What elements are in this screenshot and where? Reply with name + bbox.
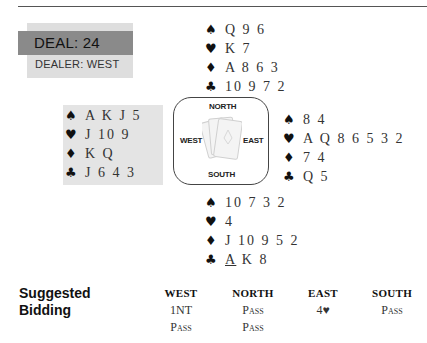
top-rule	[18, 6, 427, 7]
spade-icon: ♠	[205, 20, 225, 39]
bidding-header-west: WEST	[155, 285, 207, 302]
heart-icon: ♥	[205, 39, 225, 58]
east-hearts: ♥A Q 8 6 5 3 2	[283, 129, 404, 148]
south-hand: ♠10 7 3 2 ♥4 ♦J 10 9 5 2 ♣A K 8	[205, 193, 299, 269]
diamond-icon: ♦	[205, 231, 225, 250]
club-icon: ♣	[205, 250, 225, 269]
diamond-icon: ♦	[283, 148, 303, 167]
club-icon: ♣	[283, 167, 303, 186]
east-spades: ♠8 4	[283, 110, 404, 129]
south-diamonds: ♦J 10 9 5 2	[205, 231, 299, 250]
compass-west-label: WEST	[180, 136, 202, 145]
spade-icon: ♠	[283, 110, 303, 129]
bid: Pass	[363, 302, 421, 319]
bidding-column-south: SOUTH Pass	[363, 285, 421, 319]
compass-south-label: SOUTH	[208, 170, 235, 179]
west-hearts: ♥J 10 9	[65, 125, 141, 144]
spade-icon: ♠	[205, 193, 225, 212]
bidding-column-east: EAST 4♥	[298, 285, 348, 319]
heart-icon: ♥	[283, 129, 303, 148]
east-clubs: ♣Q 5	[283, 167, 404, 186]
bid: 1NT	[155, 302, 207, 319]
bid: Pass	[223, 302, 283, 319]
deal-number: DEAL: 24	[18, 31, 133, 55]
bidding-title: Suggested Bidding	[19, 285, 91, 319]
compass-table: NORTH WEST EAST SOUTH	[173, 97, 269, 185]
north-diamonds: ♦A 8 6 3	[205, 58, 287, 77]
north-clubs: ♣10 9 7 2	[205, 77, 287, 96]
bidding-header-south: SOUTH	[363, 285, 421, 302]
west-clubs: ♣J 6 4 3	[65, 163, 141, 182]
bid: Pass	[223, 319, 283, 336]
bidding-column-west: WEST 1NT Pass	[155, 285, 207, 336]
heart-icon: ♥	[65, 125, 85, 144]
compass-north-label: NORTH	[209, 102, 236, 111]
bidding-header-east: EAST	[298, 285, 348, 302]
bidding-column-north: NORTH Pass Pass	[223, 285, 283, 336]
north-spades: ♠Q 9 6	[205, 20, 287, 39]
east-diamonds: ♦7 4	[283, 148, 404, 167]
west-hand: ♠A K J 5 ♥J 10 9 ♦K Q ♣J 6 4 3	[65, 106, 141, 182]
club-icon: ♣	[65, 163, 85, 182]
north-hearts: ♥K 7	[205, 39, 287, 58]
north-hand: ♠Q 9 6 ♥K 7 ♦A 8 6 3 ♣10 9 7 2	[205, 20, 287, 96]
diamond-icon: ♦	[205, 58, 225, 77]
south-spades: ♠10 7 3 2	[205, 193, 299, 212]
compass-east-label: EAST	[243, 136, 264, 145]
bid: Pass	[155, 319, 207, 336]
diamond-icon: ♦	[65, 144, 85, 163]
opening-lead-card: A	[225, 252, 236, 267]
bid: 4♥	[298, 302, 348, 319]
south-clubs: ♣A K 8	[205, 250, 299, 269]
heart-icon: ♥	[205, 212, 225, 231]
south-hearts: ♥4	[205, 212, 299, 231]
club-icon: ♣	[205, 77, 225, 96]
bidding-header-north: NORTH	[223, 285, 283, 302]
dealer-label: DEALER: WEST	[35, 58, 119, 70]
playing-cards-icon	[202, 112, 242, 168]
west-spades: ♠A K J 5	[65, 106, 141, 125]
spade-icon: ♠	[65, 106, 85, 125]
east-hand: ♠8 4 ♥A Q 8 6 5 3 2 ♦7 4 ♣Q 5	[283, 110, 404, 186]
west-diamonds: ♦K Q	[65, 144, 141, 163]
